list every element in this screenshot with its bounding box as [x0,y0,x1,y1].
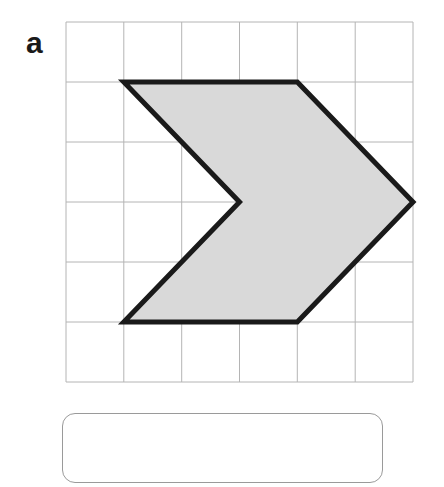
grid-figure-svg [0,0,444,400]
grid-figure-container [0,0,444,400]
answer-box[interactable] [62,413,383,483]
worksheet-page: a [0,0,444,487]
